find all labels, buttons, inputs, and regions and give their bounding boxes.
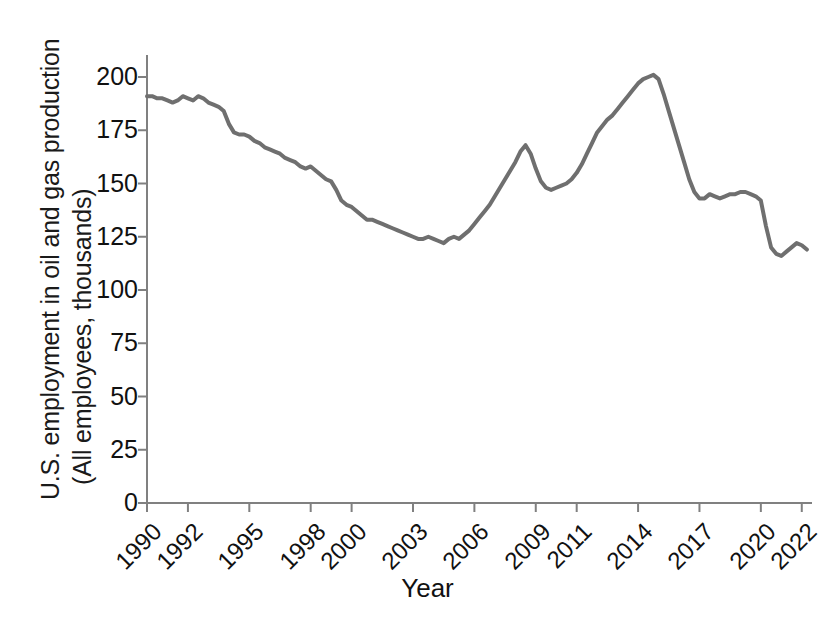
axis-ticks [138,77,802,512]
plot-area [0,0,829,620]
data-series-line [147,75,807,256]
chart-figure: U.S. employment in oil and gas productio… [0,0,829,620]
x-axis-title: Year [0,573,829,604]
x-axis-title-text: Year [401,573,454,604]
